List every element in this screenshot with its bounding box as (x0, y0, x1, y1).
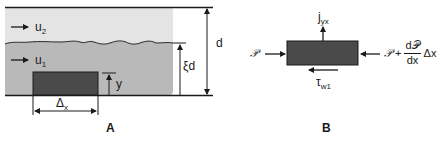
derivative-denominator: dx (407, 54, 419, 67)
flux-jyx-label: jyx (318, 11, 329, 26)
y-label: y (116, 78, 122, 90)
u2-label: u2 (35, 21, 46, 36)
delta-x-term: Δx (424, 48, 437, 59)
diagram-graphics (0, 0, 448, 142)
right-pressure-expression: 𝒫 + d𝒫 dx Δx (384, 40, 436, 66)
plus-sign: + (395, 48, 401, 59)
left-pressure-label: 𝒫 (250, 48, 258, 59)
right-pressure-symbol: 𝒫 (384, 48, 392, 59)
d-label: d (216, 37, 223, 49)
shear-tau-label: τw1 (316, 76, 331, 91)
panel-a-label: A (106, 122, 115, 134)
xid-label: ξd (183, 60, 195, 72)
panel-b-graphic (265, 27, 380, 70)
fluid-element-box (33, 72, 98, 95)
u1-label: u1 (35, 54, 46, 69)
derivative-numerator: d𝒫 (404, 40, 420, 54)
derivative-fraction: d𝒫 dx (404, 40, 420, 66)
dx-label: Δx (56, 97, 68, 112)
upper-fluid-layer (5, 8, 173, 44)
control-volume-box (287, 41, 358, 65)
panel-b-label: B (322, 122, 331, 134)
